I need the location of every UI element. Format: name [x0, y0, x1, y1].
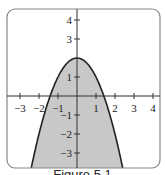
y-tick-label: −3: [60, 147, 72, 159]
y-tick-label: −1: [60, 109, 72, 121]
x-tick-label: 4: [150, 102, 156, 114]
x-tick-label: −3: [14, 102, 26, 114]
x-tick-label: 3: [131, 102, 137, 114]
y-tick-label: 4: [67, 14, 73, 26]
x-tick-label: 1: [93, 102, 99, 114]
y-tick-label: −2: [60, 128, 72, 140]
y-tick-label: 3: [67, 33, 73, 45]
chart: −3−2−11234431−1−2−3: [0, 0, 165, 175]
figure-caption: Figure 5.1: [0, 167, 165, 175]
x-tick-label: −2: [33, 102, 45, 114]
x-tick-label: 2: [112, 102, 118, 114]
y-tick-label: 1: [67, 71, 73, 83]
